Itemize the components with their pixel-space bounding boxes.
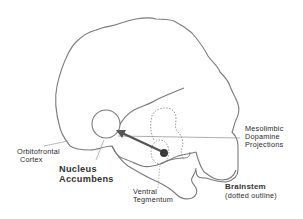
label-nucleus-accumbens-line1: Nucleus — [59, 164, 114, 174]
label-nucleus-accumbens: Nucleus Accumbens — [59, 164, 114, 185]
label-orbitofrontal-line2: Cortex — [17, 156, 60, 164]
label-ventral-tegmentum: Ventral Tegmentum — [133, 188, 173, 204]
brain-outline — [56, 18, 239, 182]
label-ventral-tegmentum-line2: Tegmentum — [133, 196, 173, 204]
nucleus-accumbens-leader — [96, 140, 104, 160]
label-brainstem: Brainstem (dotted outline) — [225, 183, 277, 200]
mesolimbic-pointer-line — [118, 136, 240, 138]
label-brainstem-line2: (dotted outline) — [225, 192, 277, 200]
ventral-tegmentum-dot — [160, 149, 168, 157]
label-mesolimbic-dopamine-projections: Mesolimbic Dopamine Projections — [245, 125, 284, 150]
label-orbitofrontal-cortex: Orbitofrontal Cortex — [17, 148, 60, 164]
label-nucleus-accumbens-line2: Accumbens — [59, 174, 114, 184]
cerebellum-outline — [196, 152, 236, 180]
ventral-tegmentum-leader — [158, 164, 160, 188]
nucleus-accumbens-circle — [92, 110, 120, 138]
dopamine-projection-arrow — [122, 133, 163, 152]
orbitofrontal-leader — [44, 141, 68, 146]
label-mesolimbic-line3: Projections — [245, 141, 284, 149]
